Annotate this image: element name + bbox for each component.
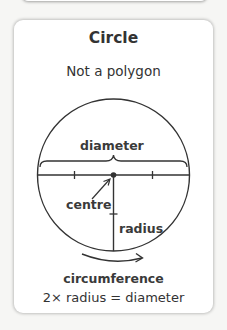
circumference-arrow-head [136, 254, 143, 263]
circumference-label: circumference [0, 271, 227, 286]
diameter-label: diameter [80, 138, 144, 153]
centre-label: centre [66, 197, 111, 212]
formula-text: 2× radius = diameter [0, 290, 227, 305]
diameter-brace [40, 155, 187, 167]
radius-label: radius [119, 221, 163, 236]
circumference-arrow [82, 254, 142, 261]
centre-dot [111, 172, 117, 178]
